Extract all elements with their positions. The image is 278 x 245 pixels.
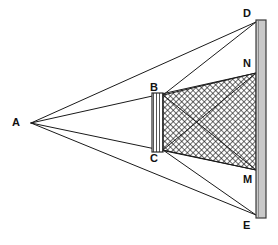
vertex-label-n: N <box>243 58 251 69</box>
vertex-label-d: D <box>243 8 251 19</box>
geometry-figure: A B C D N M E <box>0 0 278 245</box>
vertex-label-a: A <box>12 117 20 128</box>
figure-canvas <box>0 0 278 245</box>
vertex-label-c: C <box>150 153 158 164</box>
aperture-bar-bc <box>152 93 163 152</box>
screen-bar-body <box>256 20 266 218</box>
vertex-label-e: E <box>243 220 250 231</box>
aperture-bar-body <box>152 93 163 152</box>
screen-bar-de <box>256 20 266 218</box>
vertex-label-m: M <box>243 174 252 185</box>
vertex-label-b: B <box>150 82 158 93</box>
shaded-region-bnmc <box>163 73 256 170</box>
